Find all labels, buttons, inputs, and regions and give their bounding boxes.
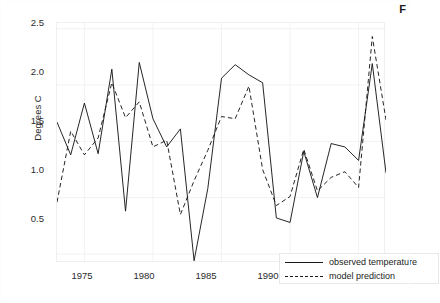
y-tick-label-2.0: 2.0 (4, 66, 44, 77)
y-tick-label-2.5: 2.5 (4, 17, 44, 28)
chart-svg (57, 23, 386, 263)
legend-label-observed: observed temperature (329, 256, 417, 269)
legend-label-model: model prediction (329, 270, 395, 283)
x-tick-label-1975: 1975 (62, 270, 102, 281)
legend-key-solid-line-icon (285, 262, 323, 264)
y-tick-label-1.0: 1.0 (4, 164, 44, 175)
y-tick-label-0.5: 0.5 (4, 213, 44, 224)
y-tick-label-1.5: 1.5 (4, 115, 44, 126)
plot-area: observed temperature model prediction (56, 22, 385, 262)
legend-key-dashed-line-icon (285, 276, 323, 278)
legend: observed temperature model prediction (279, 253, 439, 284)
x-tick-label-1985: 1985 (186, 270, 226, 281)
panel-label: F (399, 3, 406, 15)
legend-entry-model: model prediction (280, 270, 440, 284)
x-tick-label-1980: 1980 (124, 270, 164, 281)
gridlines (57, 23, 386, 263)
legend-entry-observed: observed temperature (280, 256, 440, 270)
